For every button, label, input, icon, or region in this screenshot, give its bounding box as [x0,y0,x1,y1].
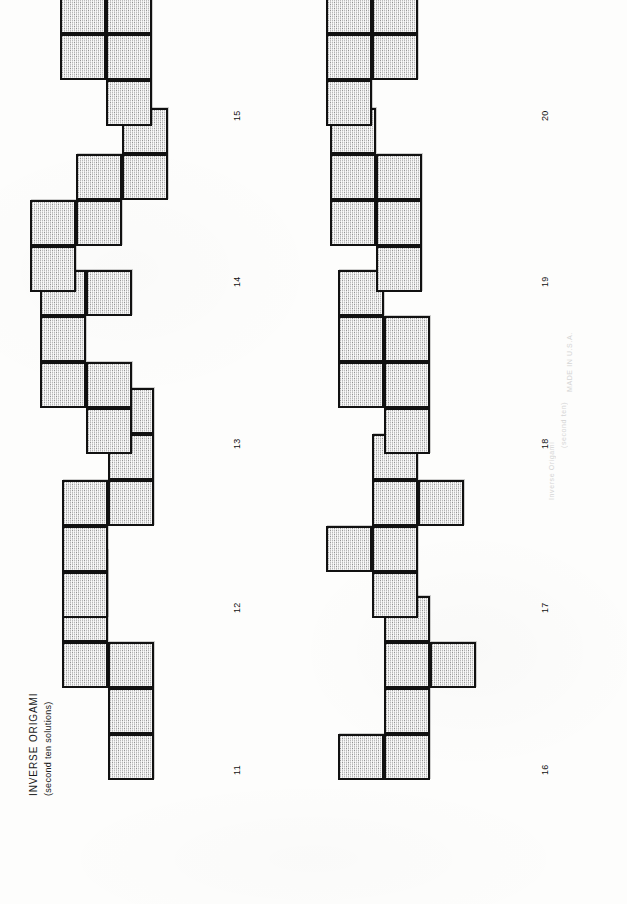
polyomino-square [372,526,418,572]
polyomino-square [86,362,132,408]
polyomino-square [372,572,418,618]
polyomino-square [384,408,430,454]
polyomino-square [376,200,422,246]
polyomino-square [376,246,422,292]
scanned-sheet: MADE IN U.S.A. (second ten) Inverse Orig… [0,0,627,904]
figure-label-16: 16 [540,764,550,775]
figure-label-19: 19 [540,276,550,287]
polyomino-square [326,0,372,34]
polyomino-square [86,270,132,316]
polyomino-square [76,154,122,200]
figure-label-17: 17 [540,602,550,613]
polyomino-square [384,362,430,408]
polyomino-square [106,0,152,34]
polyomino-square [338,362,384,408]
polyomino-square [40,362,86,408]
page-title: INVERSE ORIGAMI [28,692,39,796]
polyomino-square [376,154,422,200]
polyomino-square [330,154,376,200]
title-block: INVERSE ORIGAMI (second ten solutions) [28,692,53,796]
polyomino-square [108,642,154,688]
polyomino-square [62,480,108,526]
polyomino-square [30,200,76,246]
figure-label-20: 20 [540,110,550,121]
polyomino-square [106,34,152,80]
polyomino-square [430,642,476,688]
polyomino-square [62,572,108,618]
polyomino-square [62,526,108,572]
polyomino-square [108,734,154,780]
polyomino-square [338,316,384,362]
polyomino-square [62,642,108,688]
polyomino-square [372,480,418,526]
polyomino-square [418,480,464,526]
polyomino-square [30,246,76,292]
figure-label-12: 12 [232,602,242,613]
polyomino-square [384,688,430,734]
polyomino-square [338,734,384,780]
polyomino-square [372,34,418,80]
polyomino-square [106,80,152,126]
polyomino-square [76,200,122,246]
polyomino-square [326,34,372,80]
polyomino-square [122,154,168,200]
page-subtitle: (second ten solutions) [43,692,53,796]
polyomino-square [40,316,86,362]
polyomino-square [108,688,154,734]
polyomino-square [326,526,372,572]
polyomino-square [372,0,418,34]
polyomino-square [384,734,430,780]
polyomino-square [384,642,430,688]
figure-label-11: 11 [232,765,242,775]
polyomino-square [384,316,430,362]
polyomino-square [326,80,372,126]
printed-page: INVERSE ORIGAMI (second ten solutions) 1… [0,0,627,904]
polyomino-square [330,200,376,246]
polyomino-square [108,480,154,526]
polyomino-square [86,408,132,454]
figure-label-13: 13 [232,438,242,449]
figure-label-15: 15 [232,110,242,121]
figure-label-18: 18 [540,438,550,449]
polyomino-square [60,34,106,80]
figure-label-14: 14 [232,276,242,287]
polyomino-square [60,0,106,34]
